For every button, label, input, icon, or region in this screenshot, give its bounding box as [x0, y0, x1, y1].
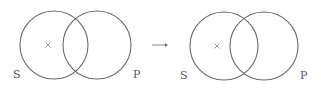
set-s-circle: [20, 11, 88, 79]
set-p-label: P: [133, 68, 141, 81]
cross-mark-icon: [46, 43, 51, 48]
cross-mark-icon: [215, 44, 220, 49]
arrow-icon: [152, 43, 168, 47]
set-s-circle: [190, 12, 258, 80]
set-p-circle: [63, 11, 131, 79]
set-s-label: S: [180, 69, 188, 82]
set-p-label: P: [300, 69, 308, 82]
venn-diagram-before: S P: [13, 11, 141, 81]
venn-diagram-after: S P: [180, 12, 308, 82]
venn-transformation-figure: S P S P: [0, 0, 321, 96]
set-s-label: S: [13, 68, 21, 81]
set-p-circle: [230, 12, 298, 80]
